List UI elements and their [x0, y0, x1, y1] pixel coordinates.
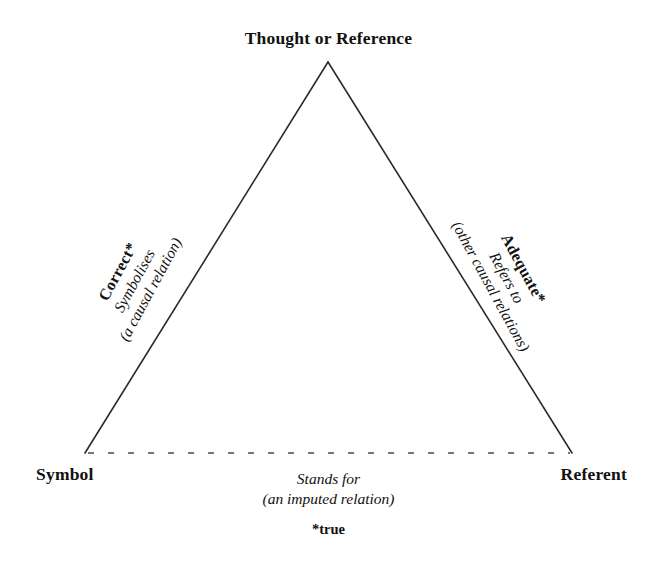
clipped-scan-caption: [18, 556, 643, 572]
baseline-relation-text: Stands for: [0, 469, 657, 489]
footnote-true: *true: [0, 521, 657, 538]
baseline-relation-group: Stands for (an imputed relation): [0, 469, 657, 510]
triangle-right-edge: [328, 62, 572, 453]
baseline-relation-qualifier: (an imputed relation): [0, 489, 657, 509]
semiotic-triangle-diagram: Thought or Reference Symbol Referent Cor…: [0, 0, 657, 572]
apex-vertex-label: Thought or Reference: [0, 28, 657, 49]
